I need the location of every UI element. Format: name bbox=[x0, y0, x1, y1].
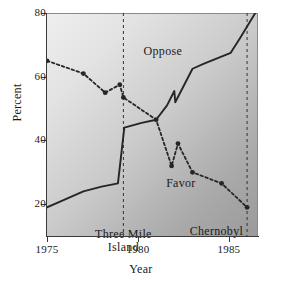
x-tick bbox=[229, 237, 230, 242]
x-tick bbox=[138, 237, 139, 242]
x-tick bbox=[47, 237, 48, 242]
x-tick-label: 1975 bbox=[25, 244, 69, 255]
x-axis-title: Year bbox=[0, 262, 282, 277]
x-tick-label: 1980 bbox=[116, 244, 160, 255]
series-line-favor bbox=[47, 61, 247, 208]
x-tick-label: 1985 bbox=[207, 244, 251, 255]
y-axis-title: Percent bbox=[10, 58, 25, 148]
event-lines-group bbox=[123, 13, 247, 236]
series-markers-group bbox=[47, 58, 249, 209]
series-label-favor: Favor bbox=[166, 177, 196, 189]
event-label-line1: Three Mile bbox=[95, 227, 152, 241]
series-lines-group bbox=[47, 13, 255, 207]
data-point-favor bbox=[47, 58, 49, 63]
data-point-favor bbox=[81, 71, 86, 76]
series-label-oppose: Oppose bbox=[144, 45, 182, 57]
x-axis-line bbox=[46, 236, 259, 237]
data-point-favor bbox=[117, 82, 122, 87]
data-point-favor bbox=[190, 170, 195, 175]
data-point-favor bbox=[176, 141, 181, 146]
data-point-favor bbox=[245, 205, 250, 210]
data-point-favor bbox=[169, 164, 174, 169]
y-tick-label: 20 bbox=[16, 198, 46, 209]
data-point-favor bbox=[219, 181, 224, 186]
series-line-oppose bbox=[47, 13, 255, 207]
data-point-favor bbox=[121, 95, 126, 100]
plot-area: Oppose Favor Three Mile Island Chernobyl bbox=[47, 13, 258, 236]
data-point-favor bbox=[154, 117, 159, 122]
chart-figure: Oppose Favor Three Mile Island Chernobyl… bbox=[0, 0, 282, 301]
y-axis-line bbox=[46, 13, 47, 237]
data-point-favor bbox=[103, 90, 108, 95]
y-tick-label: 80 bbox=[16, 7, 46, 18]
